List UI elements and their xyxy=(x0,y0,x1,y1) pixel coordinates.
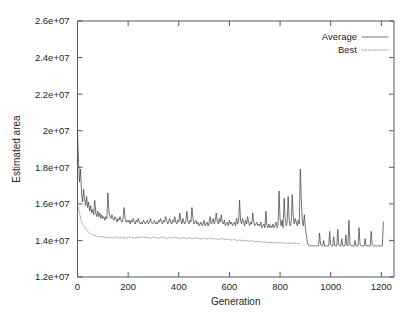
x-tick-label: 800 xyxy=(272,281,288,292)
chart-container: 1.2e+071.4e+071.6e+071.8e+072e+072.2e+07… xyxy=(0,0,410,317)
legend-label-average: Average xyxy=(322,31,357,42)
x-tick-label: 1000 xyxy=(320,281,341,292)
y-tick-label: 2.6e+07 xyxy=(35,15,70,26)
y-axis-title: Estimated area xyxy=(11,115,22,183)
x-tick-label: 1200 xyxy=(371,281,392,292)
x-tick-label: 400 xyxy=(171,281,187,292)
estimated-area-vs-generation-chart: 1.2e+071.4e+071.6e+071.8e+072e+072.2e+07… xyxy=(0,0,410,317)
y-tick-label: 2.4e+07 xyxy=(35,52,70,63)
y-tick-label: 1.8e+07 xyxy=(35,162,70,173)
y-tick-label: 1.4e+07 xyxy=(35,235,70,246)
x-tick-label: 200 xyxy=(120,281,136,292)
y-tick-label: 2e+07 xyxy=(43,125,70,136)
y-tick-label: 1.2e+07 xyxy=(35,271,70,282)
x-axis-title: Generation xyxy=(211,296,260,307)
y-tick-label: 2.2e+07 xyxy=(35,89,70,100)
x-tick-label: 600 xyxy=(221,281,237,292)
legend-label-best: Best xyxy=(338,44,357,55)
x-tick-label: 0 xyxy=(75,281,80,292)
y-tick-label: 1.6e+07 xyxy=(35,198,70,209)
